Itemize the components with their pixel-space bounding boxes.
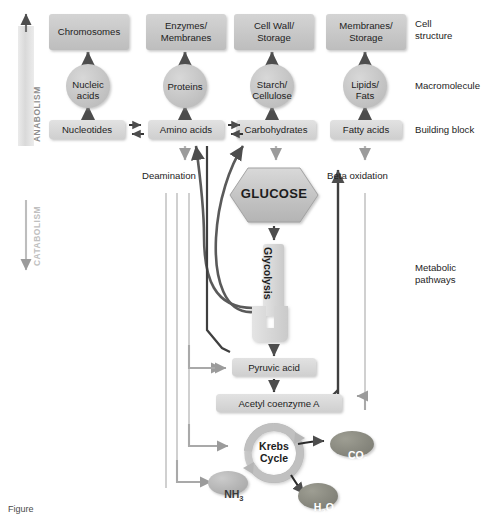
label-cell-wall-storage-2: Storage <box>234 32 314 44</box>
row-label-building-block: Building block <box>415 124 474 136</box>
label-nh3: NH3 <box>208 477 248 516</box>
label-lipids-fats-2: Fats <box>335 90 395 102</box>
label-enzymes-membranes-2: Membranes <box>146 32 226 44</box>
label-beta-oxidation: Beta oxidation <box>327 170 388 182</box>
nh3-sub: 3 <box>239 494 243 503</box>
nh3-main: NH <box>224 488 239 500</box>
label-cell-wall-storage-1: Cell Wall/ <box>234 20 314 32</box>
catabolism-label: CATABOLISM <box>32 206 42 266</box>
label-proteins: Proteins <box>155 81 215 93</box>
label-lipids-fats-1: Lipids/ <box>335 79 395 91</box>
label-glucose: GLUCOSE <box>230 188 318 200</box>
anabolism-label: ANABOLISM <box>32 86 42 142</box>
label-acetyl-coenzyme-a: Acetyl coenzyme A <box>216 398 342 410</box>
label-starch-cellulose-1: Starch/ <box>240 79 304 91</box>
row-label-cell-structure-2: structure <box>415 30 452 42</box>
label-co2: CO2 <box>330 438 374 477</box>
label-carbohydrates: Carbohydrates <box>236 124 316 136</box>
label-amino-acids: Amino acids <box>148 124 224 136</box>
figure-caption: Figure <box>8 504 34 514</box>
label-nucleic-acids-2: acids <box>58 90 118 102</box>
co2-sub: 2 <box>364 455 368 464</box>
label-deamination: Deamination <box>142 170 196 182</box>
row-label-cell-structure-1: Cell <box>415 18 432 30</box>
row-label-metabolic-pathways-1: Metabolic <box>415 262 456 274</box>
line-amino-to-pyruvic <box>207 146 230 352</box>
row-label-macromolecule: Macromolecule <box>415 80 480 92</box>
deamination-feed-lines <box>166 193 189 488</box>
label-fatty-acids: Fatty acids <box>330 124 402 136</box>
label-nucleotides: Nucleotides <box>49 124 125 136</box>
row-label-metabolic-pathways-2: pathways <box>415 274 456 286</box>
gray-elbow-arrows <box>166 368 228 488</box>
label-glycolysis: Glycolysis <box>262 247 274 300</box>
label-starch-cellulose-2: Cellulose <box>240 90 304 102</box>
label-enzymes-membranes-1: Enzymes/ <box>146 20 226 32</box>
h2o-tail: O <box>326 501 334 513</box>
label-krebs-cycle-1: Krebs <box>246 441 302 453</box>
gray-arrow-to-acetyl <box>357 396 365 410</box>
label-chromosomes: Chromosomes <box>49 26 129 38</box>
line-spare <box>340 168 356 358</box>
anabolism-up-arrows <box>88 52 365 118</box>
label-membranes-storage-2: Storage <box>326 32 406 44</box>
label-krebs-cycle-2: Cycle <box>246 453 302 465</box>
label-nucleic-acids-1: Nucleic <box>58 79 118 91</box>
figure-canvas: ANABOLISM CATABOLISM Chromosomes Enzymes… <box>0 0 494 519</box>
catabolism-down-arrows <box>185 146 365 160</box>
label-pyruvic-acid: Pyruvic acid <box>232 362 316 374</box>
gray-arrow-to-pyruvic <box>189 345 226 368</box>
arrow-glycolysis-to-amino-acids <box>196 146 253 308</box>
label-h2o: H2O <box>298 490 338 519</box>
label-membranes-storage-1: Membranes/ <box>326 20 406 32</box>
co2-main: CO <box>348 449 364 461</box>
